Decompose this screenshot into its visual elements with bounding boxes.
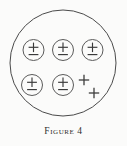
particle-5	[53, 75, 74, 96]
particle-3	[82, 40, 103, 61]
free-charge-2	[89, 88, 99, 98]
outer-circle	[10, 10, 116, 116]
particle-1	[23, 40, 44, 61]
figure-diagram	[0, 0, 127, 146]
figure-container: Figure4	[0, 0, 127, 146]
figure-caption: Figure4	[0, 126, 127, 136]
particle-2	[53, 40, 74, 61]
figure-caption-label: Figure	[44, 126, 74, 136]
free-charge-1	[79, 75, 89, 85]
figure-caption-number: 4	[77, 126, 82, 136]
particle-4	[22, 75, 43, 96]
